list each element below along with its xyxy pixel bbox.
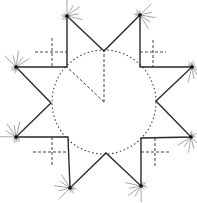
star-construction-diagram — [0, 0, 197, 203]
star-tip-markers — [0, 0, 197, 202]
dashed-construction-crosses — [33, 38, 170, 166]
tip-marker-icon — [5, 51, 30, 73]
dashed-radius — [67, 67, 104, 102]
tip-marker-icon — [125, 178, 147, 202]
tip-marker-icon — [54, 174, 76, 199]
dashed-radii — [67, 51, 104, 102]
tip-marker-icon — [0, 122, 25, 144]
tip-marker-icon — [61, 0, 83, 24]
tip-marker-icon — [183, 61, 197, 83]
tip-marker-icon — [134, 4, 156, 29]
